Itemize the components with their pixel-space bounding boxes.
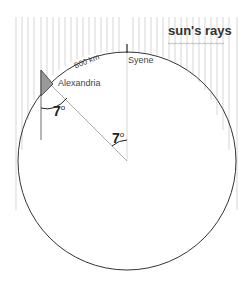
shadow-angle-label: 7o [53,103,65,119]
degree-symbol: o [120,130,124,139]
center-angle-value: 7 [112,130,120,146]
suns-rays-label: sun's rays [168,23,232,38]
rays-wave-underline [168,43,224,44]
diagram-canvas [0,0,249,287]
alexandria-label: Alexandria [58,78,101,88]
center-angle-label: 7o [112,130,124,146]
degree-symbol: o [61,103,65,112]
shadow-angle-value: 7 [53,103,61,119]
syene-label: Syene [128,55,154,65]
alexandria-radius [50,84,127,161]
